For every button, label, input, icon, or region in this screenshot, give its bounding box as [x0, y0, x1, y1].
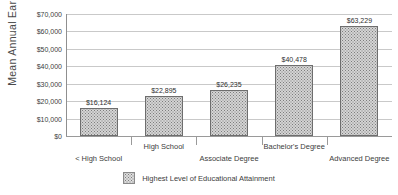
bar-slot: $40,478 — [262, 14, 327, 136]
bar-slot: $63,229 — [327, 14, 392, 136]
bar[interactable] — [340, 26, 378, 136]
bar[interactable] — [210, 90, 248, 136]
x-axis-category-label: Associate Degree — [199, 155, 258, 163]
y-axis-title: Mean Annual Earnings — [6, 0, 18, 90]
bar-value-label: $63,229 — [347, 17, 372, 24]
y-axis-tick-label: $20,000 — [22, 98, 62, 105]
y-axis-tick-label: $10,000 — [22, 115, 62, 122]
y-axis-tick-label: $40,000 — [22, 63, 62, 70]
x-axis-category-label: High School — [144, 143, 184, 151]
bar-slot: $22,895 — [131, 14, 196, 136]
x-axis-category-label: Advanced Degree — [329, 155, 389, 163]
y-axis-tick-label: $60,000 — [22, 28, 62, 35]
y-axis-tick-label: $0 — [22, 133, 62, 140]
bar-value-label: $16,124 — [86, 99, 111, 106]
bar-chart: Mean Annual Earnings $70,000$60,000$50,0… — [0, 0, 398, 195]
bar-value-label: $26,235 — [216, 81, 241, 88]
plot-area: $16,124$22,895$26,235$40,478$63,229 — [66, 14, 392, 136]
bar[interactable] — [275, 65, 313, 136]
y-axis-tick-labels: $70,000$60,000$50,000$40,000$30,000$20,0… — [22, 14, 62, 136]
x-axis-category-labels: < High SchoolHigh SchoolAssociate Degree… — [66, 136, 392, 168]
x-axis-category-label: < High School — [75, 155, 122, 163]
legend-label: Highest Level of Educational Attainment — [142, 174, 275, 183]
y-axis-tick-label: $70,000 — [22, 11, 62, 18]
y-axis-tick-label: $30,000 — [22, 80, 62, 87]
bar[interactable] — [145, 96, 183, 136]
bar-value-label: $40,478 — [282, 56, 307, 63]
legend: Highest Level of Educational Attainment — [0, 172, 398, 184]
bar-series: $16,124$22,895$26,235$40,478$63,229 — [66, 14, 392, 136]
bar-value-label: $22,895 — [151, 87, 176, 94]
legend-swatch-icon — [123, 172, 135, 184]
bar-slot: $26,235 — [196, 14, 261, 136]
bar[interactable] — [80, 108, 118, 136]
bar-slot: $16,124 — [66, 14, 131, 136]
x-axis-category-label: Bachelor's Degree — [263, 143, 324, 151]
y-axis-tick-label: $50,000 — [22, 45, 62, 52]
